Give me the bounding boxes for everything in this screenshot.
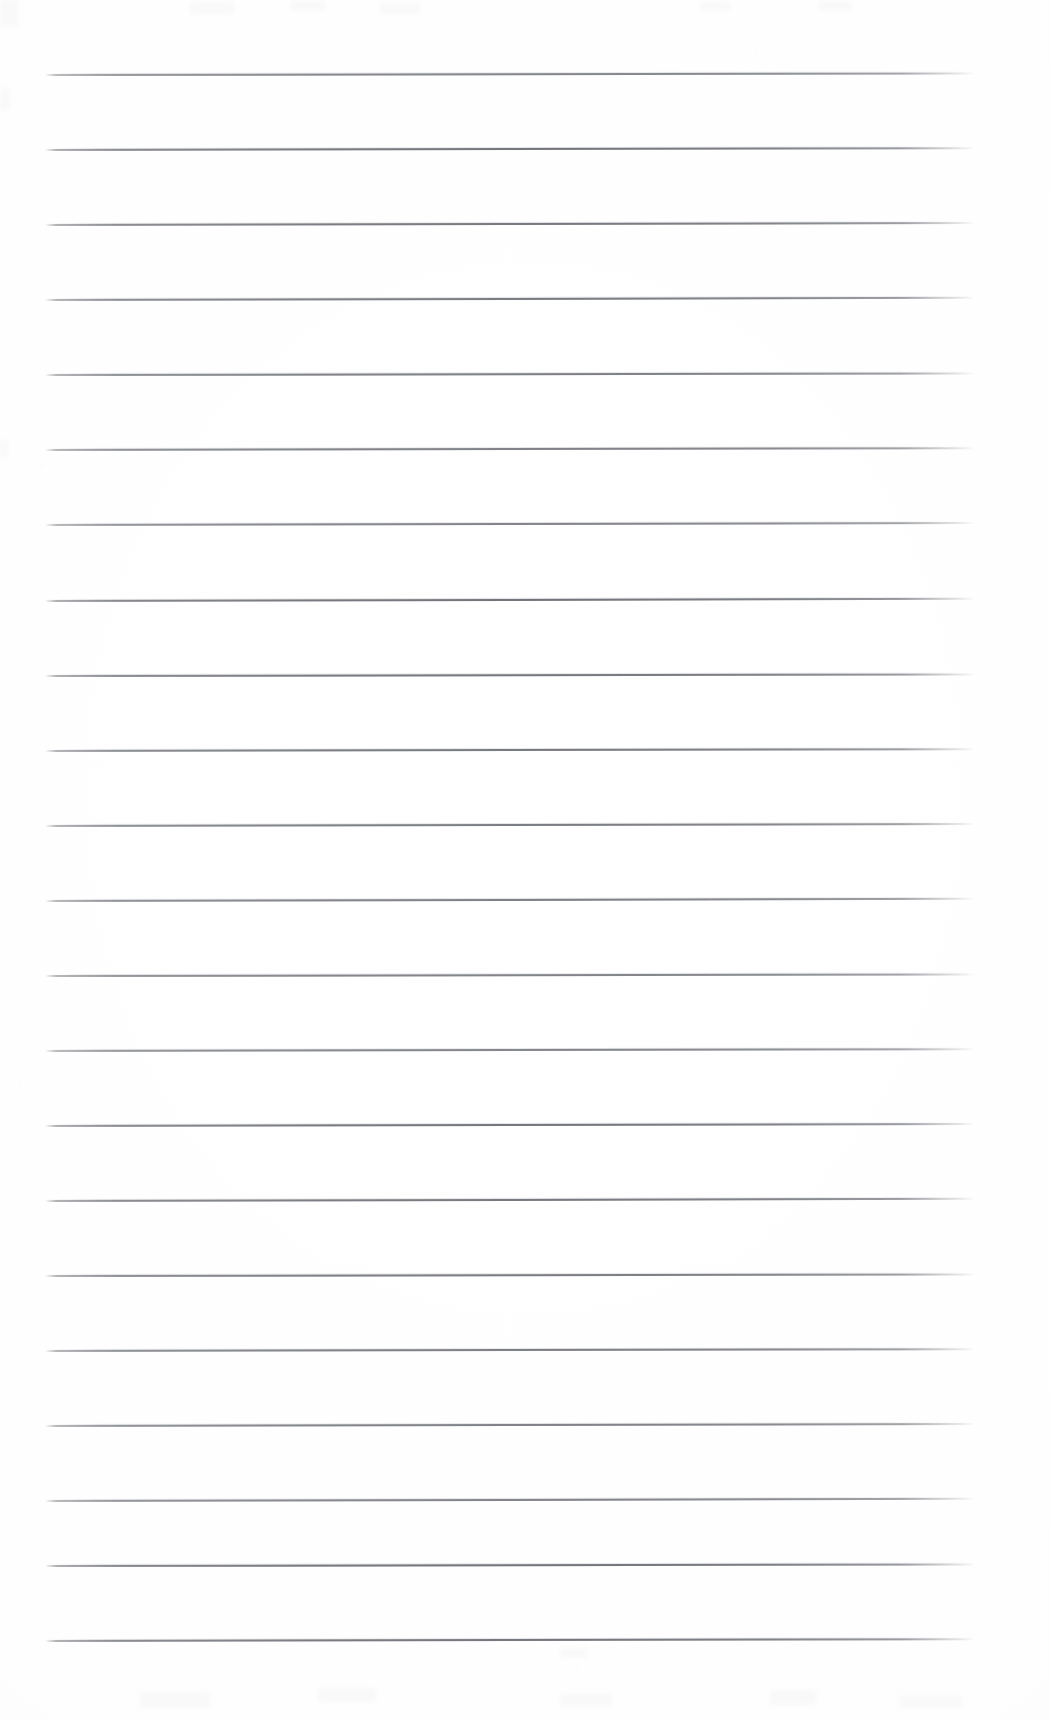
- rule-line: [45, 748, 975, 752]
- rule-line: [45, 1423, 975, 1427]
- rule-line: [45, 973, 975, 977]
- ruled-lines-group: [0, 0, 1050, 1721]
- rule-line: [45, 1273, 975, 1277]
- rule-line: [45, 898, 975, 902]
- rule-line: [45, 1348, 975, 1352]
- rule-line: [45, 1198, 975, 1202]
- rule-line: [45, 673, 975, 677]
- rule-line: [45, 222, 975, 226]
- rule-line: [45, 1638, 975, 1642]
- rule-line: [45, 447, 975, 451]
- rule-line: [45, 1048, 975, 1052]
- rule-line: [45, 823, 975, 827]
- rule-line: [45, 1123, 975, 1127]
- rule-line: [45, 372, 975, 376]
- rule-line: [45, 1498, 975, 1502]
- rule-line: [45, 598, 975, 602]
- rule-line: [45, 1563, 975, 1567]
- rule-line: [45, 522, 975, 526]
- rule-line: [45, 147, 975, 151]
- rule-line: [45, 72, 975, 76]
- rule-line: [45, 297, 975, 301]
- scanned-page: [0, 0, 1050, 1721]
